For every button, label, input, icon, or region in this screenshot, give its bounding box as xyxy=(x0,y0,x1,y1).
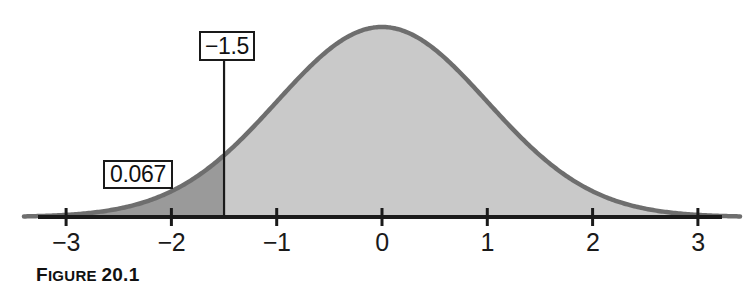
figure-caption: FIGURE 20.1 xyxy=(36,264,140,286)
z-value-callout: −1.5 xyxy=(199,31,255,61)
figure-caption-initial: F xyxy=(36,264,48,285)
x-tick-label-0: −3 xyxy=(41,230,91,255)
x-tick-label-5: 2 xyxy=(568,230,618,255)
x-tick-label-1: −2 xyxy=(146,230,196,255)
x-tick-label-3: 0 xyxy=(357,230,407,255)
z-value-text: −1.5 xyxy=(205,35,249,58)
x-tick-label-2: −1 xyxy=(252,230,302,255)
area-value-text: 0.067 xyxy=(110,163,166,186)
figure-container: −3−2−10123 0.067 −1.5 FIGURE 20.1 xyxy=(0,0,753,300)
x-tick-label-6: 3 xyxy=(673,230,723,255)
x-tick-label-4: 1 xyxy=(462,230,512,255)
area-value-callout: 0.067 xyxy=(103,160,173,189)
figure-caption-word: IGURE xyxy=(48,267,101,284)
normal-distribution-chart xyxy=(0,0,753,260)
figure-caption-number: 20.1 xyxy=(101,264,139,285)
